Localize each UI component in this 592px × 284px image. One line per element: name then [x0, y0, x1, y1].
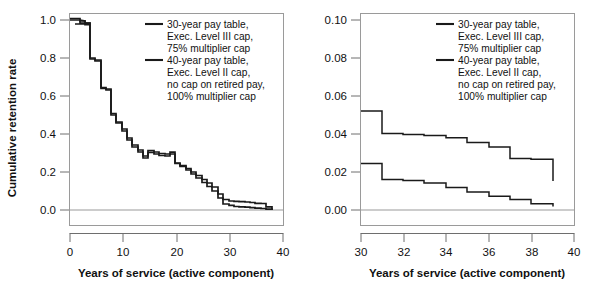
legend-line: Exec. Level II cap, — [167, 67, 250, 78]
svg-text:30: 30 — [355, 246, 368, 258]
curve-30-year-pay-table — [361, 163, 553, 206]
svg-text:0: 0 — [67, 246, 73, 258]
x-axis-tick-labels: 30 32 34 36 38 40 — [355, 246, 581, 258]
legend-line: 75% multiplier cap — [458, 43, 542, 54]
svg-text:30: 30 — [224, 246, 237, 258]
legend-line: 40-year pay table, — [458, 55, 540, 66]
legend-line: 30-year pay table, — [458, 19, 540, 30]
svg-text:0.10: 0.10 — [325, 14, 347, 26]
svg-text:0.4: 0.4 — [40, 128, 57, 140]
legend-line: 75% multiplier cap — [167, 43, 251, 54]
y-axis-tick-marks — [60, 20, 69, 210]
x-axis-tick-labels: 0 10 20 30 40 — [67, 246, 290, 258]
svg-text:40: 40 — [568, 246, 581, 258]
legend: 30-year pay table, Exec. Level III cap, … — [145, 19, 265, 102]
svg-text:40: 40 — [277, 246, 290, 258]
legend-line: Exec. Level II cap, — [458, 67, 541, 78]
svg-text:34: 34 — [440, 246, 453, 258]
y-axis-tick-marks — [351, 20, 360, 210]
x-axis-title: Years of service (active component) — [78, 267, 274, 279]
chart-panel-zoomed-tail: 0.10 0.08 0.06 0.04 0.02 0.00 — [296, 0, 592, 284]
x-axis-tick-marks — [361, 234, 574, 243]
chart-panel-full-range: Cumulative retention rate 1.0 0.8 0.6 0.… — [0, 0, 296, 284]
svg-text:38: 38 — [526, 246, 539, 258]
svg-text:36: 36 — [483, 246, 496, 258]
svg-text:0.0: 0.0 — [40, 204, 56, 216]
legend-line: 30-year pay table, — [167, 19, 249, 30]
legend-line: no cap on retired pay, — [167, 79, 265, 90]
legend-line: Exec. Level III cap, — [167, 31, 253, 42]
svg-text:Cumulative retention rate: Cumulative retention rate — [6, 59, 18, 198]
svg-text:0.06: 0.06 — [325, 90, 347, 102]
y-axis-tick-labels: 0.10 0.08 0.06 0.04 0.02 0.00 — [325, 14, 348, 216]
legend-line: Exec. Level III cap, — [458, 31, 544, 42]
svg-text:0.04: 0.04 — [325, 128, 348, 140]
svg-text:0.00: 0.00 — [325, 204, 347, 216]
svg-text:1.0: 1.0 — [40, 14, 56, 26]
svg-text:20: 20 — [171, 246, 184, 258]
y-axis-tick-labels: 1.0 0.8 0.6 0.4 0.2 0.0 — [40, 14, 57, 216]
curve-40-year-pay-table — [361, 111, 553, 181]
x-axis-title: Years of service (active component) — [369, 267, 565, 279]
svg-text:0.08: 0.08 — [325, 52, 347, 64]
svg-text:0.02: 0.02 — [325, 166, 347, 178]
svg-text:0.8: 0.8 — [40, 52, 56, 64]
svg-text:10: 10 — [117, 246, 130, 258]
y-axis-title: Cumulative retention rate — [6, 59, 18, 198]
legend: 30-year pay table, Exec. Level III cap, … — [436, 19, 556, 102]
svg-text:0.6: 0.6 — [40, 90, 56, 102]
retention-rate-figure: Cumulative retention rate 1.0 0.8 0.6 0.… — [0, 0, 592, 284]
legend-line: no cap on retired pay, — [458, 79, 556, 90]
legend-line: 40-year pay table, — [167, 55, 249, 66]
svg-text:32: 32 — [398, 246, 411, 258]
legend-line: 100% multiplier cap — [167, 91, 256, 102]
x-axis-tick-marks — [70, 234, 283, 243]
svg-text:0.2: 0.2 — [40, 166, 56, 178]
legend-line: 100% multiplier cap — [458, 91, 547, 102]
